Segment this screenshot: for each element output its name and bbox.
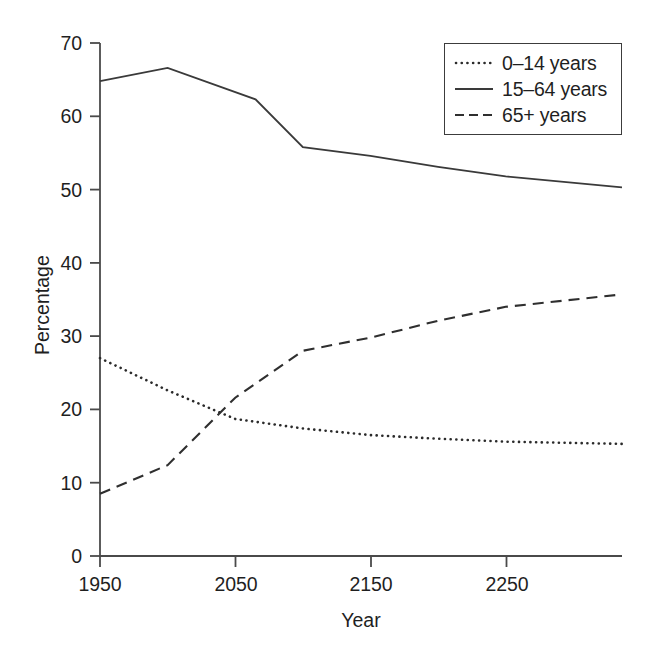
series-line-0-14-years <box>100 358 622 444</box>
legend-label-15-64-years: 15–64 years <box>502 79 607 99</box>
legend: 0–14 years 15–64 years 65+ years <box>444 43 622 135</box>
dotted-line-swatch <box>454 54 498 72</box>
x-axis-title: Year <box>341 609 380 632</box>
legend-entry-15-64-years: 15–64 years <box>454 76 611 102</box>
solid-line-swatch <box>454 80 498 98</box>
legend-entry-65-plus-years: 65+ years <box>454 102 611 128</box>
legend-label-0-14-years: 0–14 years <box>502 53 596 73</box>
y-axis-title: Percentage <box>31 255 54 355</box>
y-tick-label-0: 0 <box>38 545 82 568</box>
x-tick-marks <box>100 556 507 567</box>
legend-label-65-plus-years: 65+ years <box>502 105 586 125</box>
y-tick-label-10: 10 <box>38 472 82 495</box>
y-tick-marks <box>90 43 100 556</box>
y-tick-label-70: 70 <box>38 32 82 55</box>
x-tick-label-2250: 2250 <box>486 573 529 596</box>
x-tick-label-2150: 2150 <box>350 573 393 596</box>
y-tick-label-50: 50 <box>38 179 82 202</box>
chart-figure: 70 60 50 40 30 20 10 0 1950 2050 2150 22… <box>0 0 656 650</box>
legend-entry-0-14-years: 0–14 years <box>454 50 611 76</box>
x-tick-label-2050: 2050 <box>215 573 258 596</box>
dashed-line-swatch <box>454 106 498 124</box>
y-tick-label-60: 60 <box>38 105 82 128</box>
x-tick-label-1950: 1950 <box>79 573 122 596</box>
y-tick-label-20: 20 <box>38 398 82 421</box>
